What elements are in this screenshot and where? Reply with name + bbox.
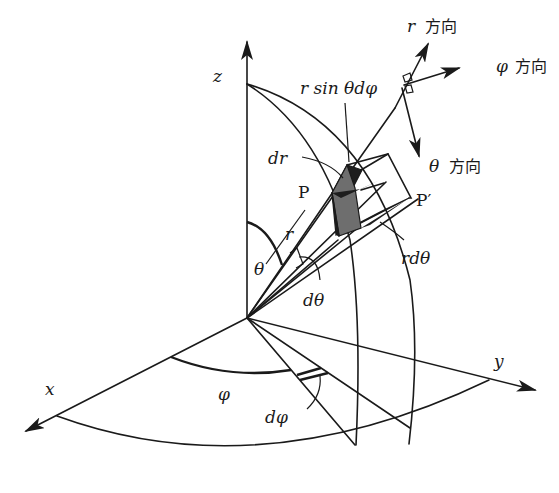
d-theta-label: dθ [303,290,324,310]
volume-element-edge-1 [361,154,388,170]
theta-label: θ [254,259,264,279]
theta-arc [247,222,282,265]
theta-direction-arrow [402,88,419,156]
rsin-leader [345,103,349,162]
r-direction-label: r 方向 [407,16,457,36]
phi-direction-label: φ 方向 [496,56,547,76]
spherical-coordinates-diagram: z x y r 方向 φ 方向 θ 方向 r sin θdφ dr P P′ r… [0,0,559,493]
z-axis-label: z [212,66,223,86]
x-axis [26,318,247,431]
radial-line-4 [247,199,418,318]
ground-ray-phi [247,318,355,445]
phi-angle-arc [171,357,291,373]
point-p-prime-label: P′ [416,190,431,210]
r-d-theta-label: rdθ [401,248,430,268]
phi-direction-arrow [404,68,459,85]
volume-element [332,154,411,236]
x-axis-label: x [45,379,55,399]
dphi-mark-1 [297,368,321,375]
phi-label: φ [218,384,230,404]
y-axis-label: y [493,351,504,371]
theta-direction-label: θ 方向 [429,156,481,176]
r-sin-theta-dphi-label: r sin θdφ [300,78,377,98]
r-label: r [285,224,294,244]
y-axis [247,318,535,390]
dphi-leader [307,376,320,409]
d-phi-label: dφ [265,407,288,427]
r-direction-arrow [395,44,428,108]
dr-label: dr [268,148,288,168]
point-p-label: P [298,182,309,202]
right-angle-mark-r [290,248,303,268]
meridian-arc-outer [247,84,415,444]
